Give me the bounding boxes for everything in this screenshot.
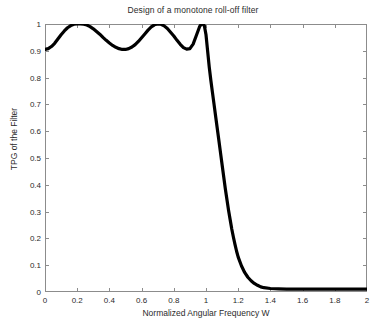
y-tick-label: 0.2 xyxy=(1,234,41,243)
plot-area xyxy=(45,24,367,292)
y-tick-label: 0.5 xyxy=(1,154,41,163)
y-tick-label: 0.9 xyxy=(1,46,41,55)
y-axis-tick-labels: 00.10.20.30.40.50.60.70.80.91 xyxy=(0,24,41,292)
x-axis-label: Normalized Angular Frequency W xyxy=(45,308,367,318)
data-series-line xyxy=(45,24,367,289)
figure-chart-tpg-filter: Design of a monotone roll-off filter TPG… xyxy=(0,0,386,325)
plot-svg xyxy=(45,24,367,292)
y-tick-label: 0.7 xyxy=(1,100,41,109)
axes-frame xyxy=(46,25,367,292)
y-tick-label: 1 xyxy=(1,20,41,29)
y-tick-label: 0.3 xyxy=(1,207,41,216)
y-tick-label: 0.8 xyxy=(1,73,41,82)
x-tick-label: 2 xyxy=(347,296,386,305)
axis-ticks xyxy=(46,25,368,293)
y-tick-label: 0.6 xyxy=(1,127,41,136)
chart-title: Design of a monotone roll-off filter xyxy=(0,5,386,15)
y-tick-label: 0.4 xyxy=(1,180,41,189)
y-tick-label: 0.1 xyxy=(1,261,41,270)
